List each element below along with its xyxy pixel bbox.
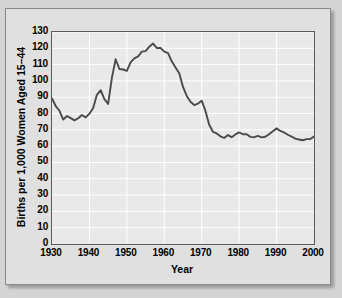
figure-container: Births per 1,000 Women Aged 15–44 010203… [0,0,342,298]
x-axis-tick-labels: 19301940195019601970198019902000 [0,0,342,298]
x-tick-label: 2000 [291,247,335,258]
x-axis-title: Year [51,263,313,275]
